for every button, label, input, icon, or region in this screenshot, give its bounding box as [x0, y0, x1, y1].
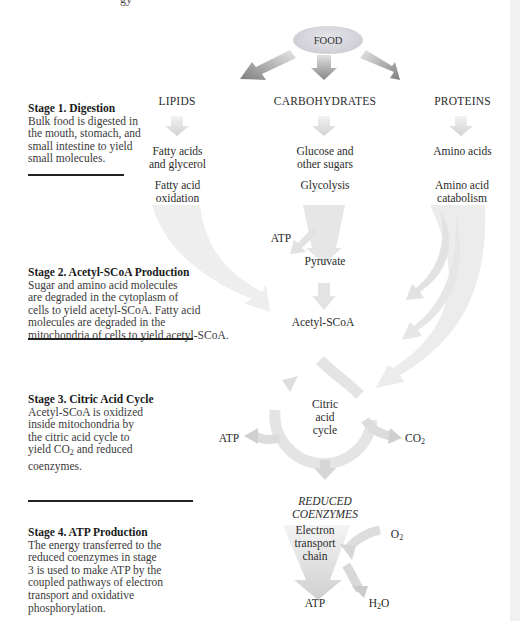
amino-catabolism-arrow-outer	[376, 205, 485, 388]
cycle-return-arrowhead	[282, 376, 298, 392]
fatty-acids-glycerol-label: Fatty acids and glycerol	[140, 145, 215, 171]
carbs-down-arrow	[312, 116, 336, 136]
glucose-sugars-label: Glucose and other sugars	[285, 145, 365, 171]
lipids-label: LIPIDS	[147, 95, 207, 108]
fatty-acid-oxidation-label: Fatty acid oxidation	[145, 179, 210, 205]
stage-1-title: Stage 1. Digestion	[28, 102, 141, 115]
electron-transport-chain-label: Electron transport chain	[285, 524, 345, 563]
acetyl-scoa-label: Acetyl-SCoA	[283, 316, 363, 329]
pyruvate-to-acetyl-arrow	[312, 283, 336, 310]
citric-acid-cycle-label: Citric acid cycle	[300, 398, 350, 437]
food-to-proteins-arrow	[360, 50, 400, 80]
stage-1-description: Stage 1. Digestion Bulk food is digested…	[28, 102, 141, 165]
glycolysis-atp-label: ATP	[266, 232, 296, 245]
stage-3-description: Stage 3. Citric Acid Cycle Acetyl-SCoA i…	[28, 393, 154, 473]
stage-3-divider	[28, 500, 193, 502]
stage-4-title: Stage 4. ATP Production	[28, 526, 163, 539]
cycle-to-atp-arrow	[256, 436, 280, 439]
stage-2-description: Stage 2. Acetyl-SCoA Production Sugar an…	[28, 266, 229, 342]
proteins-down-arrow	[449, 116, 473, 136]
o2-label: O2	[385, 528, 409, 544]
food-node: FOOD	[293, 26, 363, 54]
stage-2-title: Stage 2. Acetyl-SCoA Production	[28, 266, 229, 279]
acetyl-into-cycle-arrow	[320, 360, 360, 395]
stage-2-divider	[28, 338, 193, 340]
amino-catabolism-arrow-inner	[406, 210, 449, 300]
carbohydrates-label: CARBOHYDRATES	[270, 95, 380, 108]
h2o-label: H2O	[364, 597, 394, 613]
cycle-atp-label: ATP	[214, 432, 244, 445]
stage-1-divider	[28, 174, 124, 176]
glycolysis-label: Glycolysis	[290, 179, 360, 192]
stage-3-title: Stage 3. Citric Acid Cycle	[28, 393, 154, 406]
reduced-coenzymes-label: REDUCED COENZYMES	[280, 495, 370, 521]
food-to-carbs-arrow	[311, 55, 337, 80]
final-atp-label: ATP	[300, 597, 330, 610]
lipids-down-arrow	[165, 116, 189, 136]
proteins-label: PROTEINS	[425, 95, 500, 108]
food-label: FOOD	[314, 35, 343, 46]
amino-acids-label: Amino acids	[425, 145, 500, 158]
pyruvate-label: Pyruvate	[295, 255, 355, 268]
co2-label: CO2	[400, 432, 430, 448]
food-to-lipids-arrow	[240, 50, 296, 80]
amino-acid-catabolism-label: Amino acid catabolism	[422, 179, 502, 205]
stage-4-description: Stage 4. ATP Production The energy trans…	[28, 526, 163, 614]
